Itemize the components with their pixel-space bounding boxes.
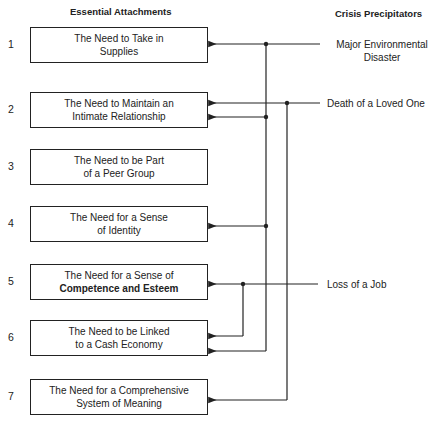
connector-lines: [0, 0, 439, 426]
